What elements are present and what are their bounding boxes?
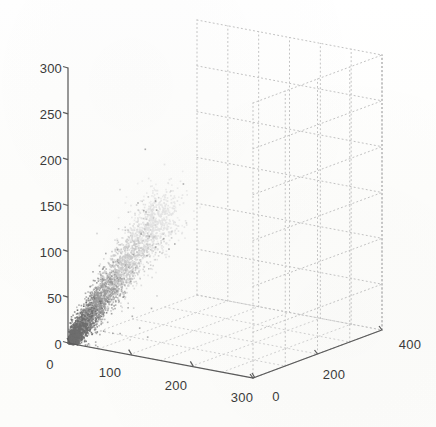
z-tick-label-100: 100 [40, 245, 62, 260]
grid-lines [68, 20, 382, 378]
figure-canvas: .gridline{ stroke:#c2c2c2; stroke-width:… [0, 0, 436, 427]
x-tick-label-200: 200 [165, 378, 187, 393]
z-tick-label-200: 200 [40, 153, 62, 168]
z-tick-label-250: 250 [40, 107, 62, 122]
y-tick-label-400: 400 [399, 337, 421, 352]
z-tick-label-0: 0 [55, 337, 62, 352]
z-tick-label-50: 50 [47, 291, 62, 306]
z-tick-label-300: 300 [40, 61, 62, 76]
z-tick-label-150: 150 [40, 199, 62, 214]
y-tick-label-200: 200 [323, 367, 345, 382]
scatter-plot-3d: .gridline{ stroke:#c2c2c2; stroke-width:… [0, 0, 436, 427]
data-points [68, 149, 201, 348]
x-tick-label-0: 0 [46, 357, 53, 372]
y-tick-label-0: 0 [272, 389, 279, 404]
x-tick-label-100: 100 [99, 365, 121, 380]
x-tick-label-300: 300 [231, 390, 253, 405]
axis-lines [63, 55, 382, 378]
